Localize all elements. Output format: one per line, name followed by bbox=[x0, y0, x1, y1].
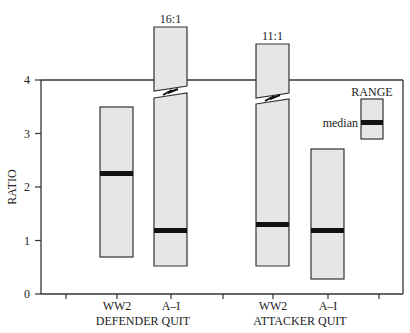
group-label-defender: DEFENDER QUIT bbox=[96, 314, 191, 328]
bar-top-label: 11:1 bbox=[262, 29, 283, 43]
y-tick-1: 1 bbox=[24, 234, 30, 248]
bar-attacker-ai bbox=[311, 149, 344, 279]
bar-defender-ai: 16:1 bbox=[154, 12, 187, 266]
bar-attacker-ww2: 11:1 bbox=[256, 29, 289, 266]
bar-defender-ww2 bbox=[100, 107, 133, 257]
median-marker bbox=[100, 171, 133, 176]
y-tick-2: 2 bbox=[24, 180, 30, 194]
legend: RANGE median bbox=[323, 85, 393, 139]
x-label-attacker-ww2: WW2 bbox=[259, 299, 288, 313]
y-axis-labels: 0 1 2 3 4 bbox=[24, 73, 30, 301]
legend-median-label: median bbox=[323, 116, 358, 130]
bar-top-label: 16:1 bbox=[160, 12, 181, 26]
median-marker bbox=[311, 228, 344, 233]
group-label-attacker: ATTACKER QUIT bbox=[253, 314, 347, 328]
range-chart: 0 1 2 3 4 RATIO 16:1 11:1 bbox=[0, 0, 410, 333]
legend-median-marker bbox=[361, 120, 383, 125]
legend-title: RANGE bbox=[351, 85, 392, 99]
y-tick-3: 3 bbox=[24, 127, 30, 141]
median-marker bbox=[154, 228, 187, 233]
y-axis-title: RATIO bbox=[5, 169, 19, 205]
y-tick-4: 4 bbox=[24, 73, 30, 87]
x-label-attacker-ai: A–I bbox=[319, 299, 338, 313]
plot-frame bbox=[41, 80, 403, 294]
median-marker bbox=[256, 222, 289, 227]
y-tick-0: 0 bbox=[24, 287, 30, 301]
x-axis-labels: WW2 A–I WW2 A–I DEFENDER QUIT ATTACKER Q… bbox=[96, 299, 348, 328]
x-label-defender-ai: A–I bbox=[162, 299, 181, 313]
x-label-defender-ww2: WW2 bbox=[103, 299, 132, 313]
y-axis-ticks bbox=[35, 80, 41, 294]
